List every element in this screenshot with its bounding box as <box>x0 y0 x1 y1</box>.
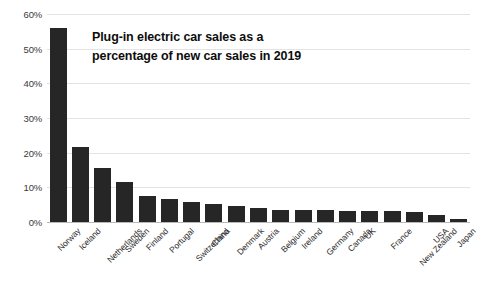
bar-germany <box>317 210 334 222</box>
x-label-slot: France <box>381 224 403 284</box>
y-axis-tick-label: 10% <box>24 182 42 193</box>
y-axis-tick-label: 40% <box>24 78 42 89</box>
x-label-slot: Norway <box>47 224 69 284</box>
x-label-slot: New Zealand <box>403 224 425 284</box>
x-label-slot: Germany <box>314 224 336 284</box>
x-label-slot: Denmark <box>225 224 247 284</box>
x-label-slot: Belgium <box>270 224 292 284</box>
bar-austria <box>250 208 267 222</box>
x-label-slot: Japan <box>448 224 470 284</box>
y-axis-tick-label: 50% <box>24 43 42 54</box>
bar-france <box>384 211 401 222</box>
bar-finland <box>139 196 156 222</box>
gridline-0: 0% <box>47 222 470 223</box>
x-label-slot: Portugal <box>158 224 180 284</box>
bar-belgium <box>272 210 289 222</box>
bar-usa <box>428 215 445 222</box>
x-label-slot: Switzerland <box>181 224 203 284</box>
x-label-slot: Austria <box>247 224 269 284</box>
bar-new-zealand <box>406 212 423 222</box>
chart-title-line-2: percentage of new car sales in 2019 <box>92 47 412 66</box>
bar-slot <box>47 14 69 222</box>
x-label-slot: Sweden <box>114 224 136 284</box>
y-axis-tick-label: 60% <box>24 9 42 20</box>
bar-canada <box>339 211 356 222</box>
bar-sweden <box>116 182 133 222</box>
y-axis-tick-label: 20% <box>24 147 42 158</box>
bar-iceland <box>72 147 89 222</box>
x-axis-tick-label: Japan <box>455 226 477 249</box>
bar-china <box>205 204 222 222</box>
x-label-slot: Finland <box>136 224 158 284</box>
x-label-slot: Canada <box>336 224 358 284</box>
bar-ireland <box>295 210 312 222</box>
chart-title-line-1: Plug-in electric car sales as a <box>92 28 412 47</box>
bar-netherlands <box>94 168 111 222</box>
bar-japan <box>450 219 467 222</box>
x-label-slot: UK <box>359 224 381 284</box>
x-axis-tick-label: UK <box>362 226 377 241</box>
bar-slot <box>448 14 470 222</box>
x-label-slot: USA <box>426 224 448 284</box>
bar-slot <box>426 14 448 222</box>
chart-title: Plug-in electric car sales as a percenta… <box>92 28 412 66</box>
bar-denmark <box>228 206 245 222</box>
y-axis-tick-label: 30% <box>24 113 42 124</box>
bar-switzerland <box>183 202 200 222</box>
x-label-slot: Ireland <box>292 224 314 284</box>
bar-uk <box>361 211 378 222</box>
bar-chart: 60%50%40%30%20%10%0% Plug-in electric ca… <box>0 0 477 286</box>
x-label-slot: China <box>203 224 225 284</box>
bar-slot <box>69 14 91 222</box>
x-axis-labels: NorwayIcelandNetherlandsSwedenFinlandPor… <box>47 224 470 284</box>
bar-norway <box>50 28 67 222</box>
x-label-slot: Netherlands <box>92 224 114 284</box>
x-label-slot: Iceland <box>69 224 91 284</box>
y-axis-tick-label: 0% <box>29 217 42 228</box>
bar-portugal <box>161 199 178 222</box>
